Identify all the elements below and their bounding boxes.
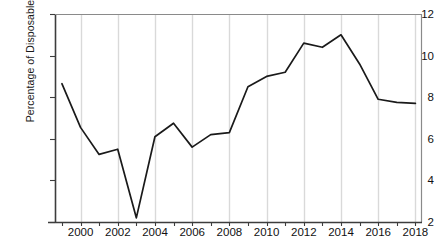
axis-ticks (50, 15, 416, 227)
data-line-series-0 (62, 35, 416, 218)
vertical-gridlines (82, 14, 416, 222)
